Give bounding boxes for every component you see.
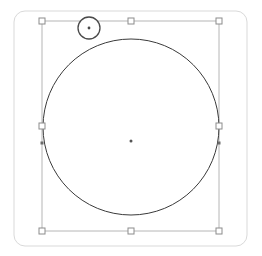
handle-top-center[interactable] bbox=[128, 18, 134, 24]
artboard-frame bbox=[14, 11, 247, 246]
handle-top-left[interactable] bbox=[39, 18, 45, 24]
handle-bottom-right[interactable] bbox=[216, 228, 222, 234]
handle-top-right[interactable] bbox=[216, 18, 222, 24]
circle-shape[interactable] bbox=[43, 39, 219, 215]
selection-bounding-box[interactable] bbox=[42, 21, 219, 231]
rotation-handle-center-dot bbox=[88, 27, 91, 30]
handle-bottom-center[interactable] bbox=[128, 228, 134, 234]
selection-box-rect bbox=[42, 21, 219, 231]
handle-bottom-left[interactable] bbox=[39, 228, 45, 234]
snap-left-marker bbox=[41, 142, 44, 145]
selection-handles[interactable] bbox=[39, 18, 222, 234]
rotation-handle[interactable] bbox=[78, 17, 100, 39]
snap-right-marker bbox=[218, 142, 221, 145]
center-point-marker bbox=[130, 140, 133, 143]
handle-middle-left[interactable] bbox=[39, 123, 45, 129]
handle-middle-right[interactable] bbox=[216, 123, 222, 129]
vector-editor-canvas-view: Selected circle with eight resize handle… bbox=[0, 0, 262, 256]
drawing-canvas[interactable] bbox=[0, 0, 262, 256]
